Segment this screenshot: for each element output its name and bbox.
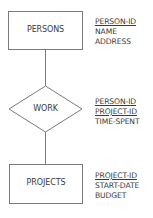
attribute-primary-key: PROJECT-ID bbox=[95, 107, 140, 117]
attribute-primary-key: PERSON-ID bbox=[95, 17, 136, 27]
attribute-list-work: PERSON-ID PROJECT-ID TIME-SPENT bbox=[95, 97, 140, 127]
entity-label-projects: PROJECTS bbox=[9, 178, 83, 187]
relationship-label-work: WORK bbox=[9, 104, 82, 113]
attribute-list-projects: PROJECT-ID START-DATE BUDGET bbox=[95, 171, 139, 201]
attribute-list-persons: PERSON-ID NAME ADDRESS bbox=[95, 17, 136, 47]
attribute-primary-key: PROJECT-ID bbox=[95, 171, 139, 181]
attribute: BUDGET bbox=[95, 191, 139, 201]
attribute: ADDRESS bbox=[95, 37, 136, 47]
attribute: START-DATE bbox=[95, 181, 139, 191]
attribute: TIME-SPENT bbox=[95, 117, 140, 127]
entity-label-persons: PERSONS bbox=[8, 25, 83, 34]
attribute-primary-key: PERSON-ID bbox=[95, 97, 140, 107]
attribute: NAME bbox=[95, 27, 136, 37]
